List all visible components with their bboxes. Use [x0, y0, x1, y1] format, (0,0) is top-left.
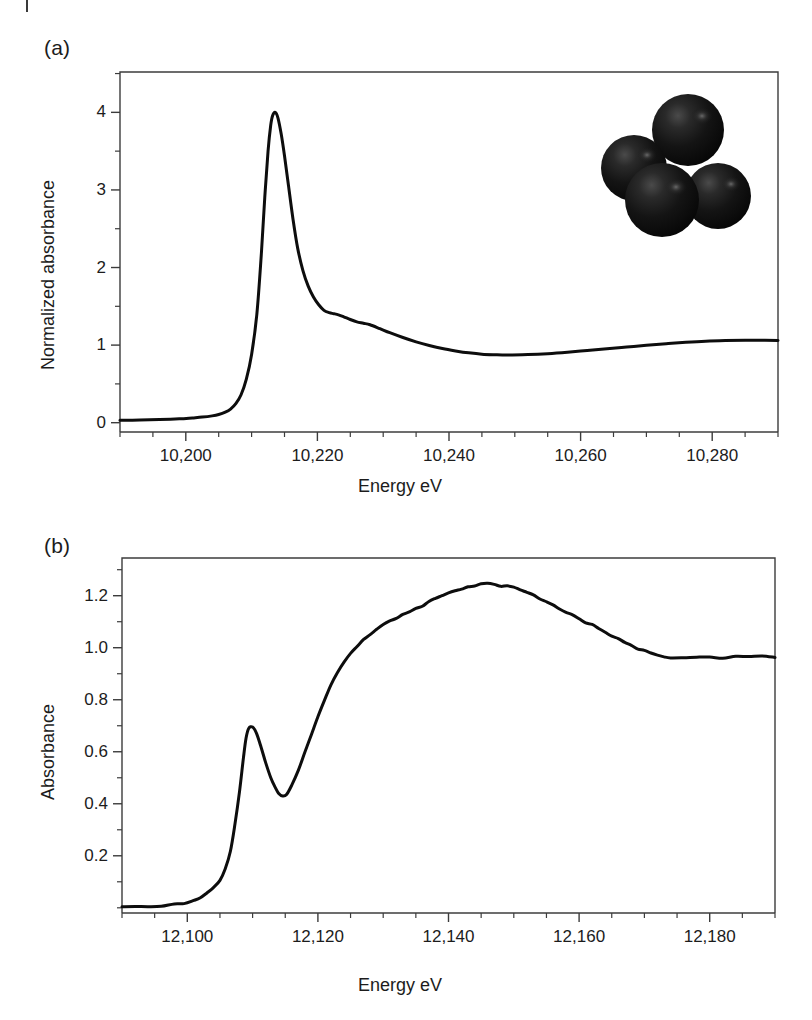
panel-a-plot [0, 0, 812, 500]
panel-a-x-axis-title: Energy eV [300, 476, 500, 497]
x-tick-label: 12,120 [292, 927, 344, 947]
y-tick-label: 3 [0, 180, 106, 200]
x-tick-label: 12,140 [423, 927, 475, 947]
y-tick-label: 4 [0, 102, 106, 122]
data-curve [120, 112, 778, 420]
x-tick-label: 12,160 [553, 927, 605, 947]
x-tick-label: 12,100 [161, 927, 213, 947]
x-tick-label: 10,240 [423, 446, 475, 466]
y-tick-label: 2 [0, 258, 106, 278]
y-tick-label: 1 [0, 335, 106, 355]
panel-b-x-axis-title: Energy eV [300, 975, 500, 996]
panel-b: (b) Absorbance Energy eV 12,10012,12012,… [0, 500, 812, 1020]
x-tick-label: 10,280 [686, 446, 738, 466]
y-tick-label: 0.2 [0, 846, 108, 866]
x-tick-label: 12,180 [684, 927, 736, 947]
x-tick-label: 10,260 [555, 446, 607, 466]
panel-a: (a) Normalized absorbance Energy eV [0, 0, 812, 500]
y-tick-label: 1.0 [0, 638, 108, 658]
y-tick-label: 0.6 [0, 742, 108, 762]
y-tick-label: 1.2 [0, 586, 108, 606]
y-tick-label: 0.8 [0, 690, 108, 710]
figure-root: (a) Normalized absorbance Energy eV [0, 0, 812, 1020]
y-tick-label: 0 [0, 413, 106, 433]
data-curve [122, 583, 775, 907]
x-tick-label: 10,220 [291, 446, 343, 466]
y-tick-label: 0.4 [0, 794, 108, 814]
x-tick-label: 10,200 [160, 446, 212, 466]
